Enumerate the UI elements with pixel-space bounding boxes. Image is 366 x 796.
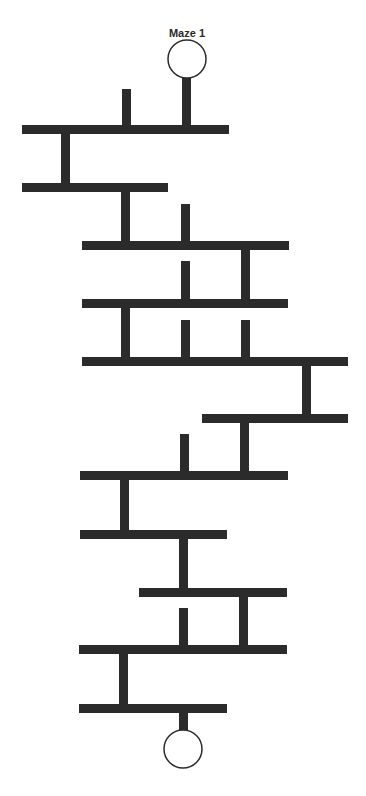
maze-vertical-connector-11 <box>240 414 249 480</box>
maze-vertical-connector-2 <box>61 125 70 192</box>
maze-vertical-connector-15 <box>239 588 248 654</box>
maze-vertical-connector-14 <box>179 530 188 597</box>
maze-vertical-connector-3 <box>121 183 130 250</box>
maze-horizontal-bar-6 <box>80 471 288 480</box>
maze-horizontal-bar-4 <box>82 357 348 366</box>
maze-diagram <box>0 0 366 796</box>
maze-horizontal-bar-0 <box>22 125 229 134</box>
maze-horizontal-bar-7 <box>80 530 227 539</box>
maze-vertical-connector-17 <box>119 645 128 713</box>
maze-horizontal-bar-5 <box>202 414 348 423</box>
maze-horizontal-bar-3 <box>82 299 288 308</box>
end-circle <box>164 730 202 768</box>
maze-vertical-connector-7 <box>121 299 130 366</box>
maze-horizontal-bar-10 <box>79 704 227 713</box>
maze-vertical-connector-10 <box>302 357 311 423</box>
start-circle <box>168 40 206 78</box>
maze-vertical-connector-5 <box>241 241 250 308</box>
maze-horizontal-bar-2 <box>82 241 289 250</box>
maze-horizontal-bar-1 <box>22 183 168 192</box>
maze-vertical-connector-13 <box>120 471 129 539</box>
maze-horizontal-bar-8 <box>139 588 287 597</box>
maze-horizontal-bar-9 <box>79 645 287 654</box>
